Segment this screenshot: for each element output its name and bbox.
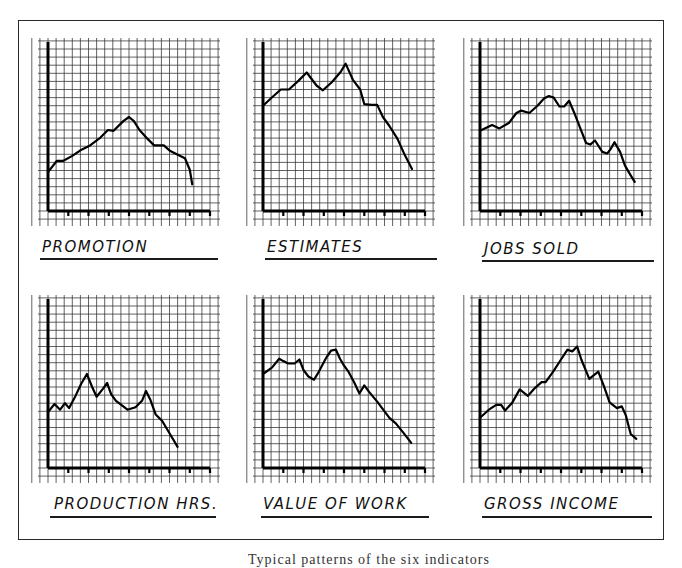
chart-estimates: ESTIMATES: [245, 30, 445, 270]
chart-plot: [30, 30, 230, 230]
chart-label: JOBS SOLD: [484, 240, 580, 259]
chart-plot: [245, 30, 445, 230]
figure-caption: Typical patterns of the six indicators: [248, 552, 490, 568]
chart-plot: [245, 287, 445, 487]
chart-label: VALUE OF WORK: [263, 495, 408, 514]
chart-jobs-sold: JOBS SOLD: [462, 30, 662, 270]
chart-label: GROSS INCOME: [484, 495, 619, 514]
label-underline: [482, 260, 654, 262]
chart-label: PROMOTION: [42, 238, 148, 257]
label-underline: [265, 258, 437, 260]
label-underline: [482, 516, 652, 518]
chart-gross-income: GROSS INCOME: [462, 287, 662, 527]
label-underline: [40, 258, 218, 260]
label-underline: [261, 516, 429, 518]
chart-label: PRODUCTION HRS.: [54, 495, 218, 514]
chart-promotion: PROMOTION: [30, 30, 230, 270]
chart-plot: [462, 30, 662, 230]
chart-plot: [462, 287, 662, 487]
chart-label: ESTIMATES: [267, 238, 363, 257]
chart-plot: [30, 287, 230, 487]
chart-value-of-work: VALUE OF WORK: [245, 287, 445, 527]
chart-production-hrs: PRODUCTION HRS.: [30, 287, 230, 527]
label-underline: [50, 516, 216, 518]
